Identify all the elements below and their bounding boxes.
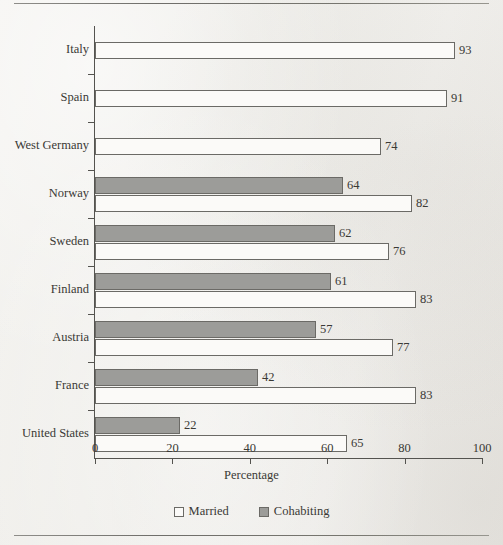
- bar-value-label: 91: [451, 91, 464, 106]
- x-axis-title: Percentage: [0, 468, 503, 483]
- bar-cohabiting: [95, 225, 335, 242]
- x-axis-tick: [405, 458, 406, 464]
- y-axis-category-label: Norway: [49, 186, 89, 201]
- y-axis-category-label: West Germany: [15, 138, 89, 153]
- y-axis-category-label: Finland: [51, 282, 89, 297]
- y-axis-tick: [88, 362, 94, 363]
- y-axis-tick: [88, 314, 94, 315]
- y-axis-category-label: Spain: [61, 90, 89, 105]
- x-axis-tick: [482, 458, 483, 464]
- bar-value-label: 74: [385, 139, 398, 154]
- y-axis-tick: [88, 122, 94, 123]
- x-axis-tick: [250, 458, 251, 464]
- legend-item-cohabiting[interactable]: Cohabiting: [259, 504, 330, 519]
- bar-cohabiting: [95, 321, 316, 338]
- grouped-bar-chart: 939174648262766183577742832265 ItalySpai…: [0, 0, 503, 545]
- x-axis-tick-label: 0: [92, 441, 98, 456]
- legend-swatch-married-icon: [174, 507, 184, 517]
- y-axis-category-label: Italy: [66, 42, 89, 57]
- x-axis-tick-label: 100: [473, 441, 492, 456]
- legend-item-married[interactable]: Married: [174, 504, 229, 519]
- x-axis-tick: [327, 458, 328, 464]
- bar-value-label: 62: [339, 226, 352, 241]
- y-axis-tick: [88, 266, 94, 267]
- bar-married: [95, 90, 447, 107]
- bar-married: [95, 138, 381, 155]
- legend-label-married: Married: [189, 504, 229, 519]
- bar-value-label: 65: [351, 436, 364, 451]
- bar-value-label: 83: [420, 388, 433, 403]
- x-axis-tick: [95, 458, 96, 464]
- y-axis-category-label: Sweden: [49, 234, 89, 249]
- legend-swatch-cohabiting-icon: [259, 507, 269, 517]
- bar-cohabiting: [95, 417, 180, 434]
- bar-married: [95, 387, 416, 404]
- y-axis-category-label: Austria: [52, 330, 89, 345]
- y-axis-category-label: France: [55, 378, 89, 393]
- plot-area: 939174648262766183577742832265: [95, 26, 482, 458]
- bar-cohabiting: [95, 369, 258, 386]
- bar-value-label: 61: [335, 274, 348, 289]
- chart-legend: Married Cohabiting: [0, 504, 503, 519]
- y-axis-tick: [88, 218, 94, 219]
- bar-married: [95, 435, 347, 452]
- bar-cohabiting: [95, 177, 343, 194]
- bar-married: [95, 243, 389, 260]
- bar-value-label: 77: [397, 340, 410, 355]
- y-axis-tick: [88, 74, 94, 75]
- x-axis-tick-label: 60: [321, 441, 334, 456]
- bar-value-label: 57: [320, 322, 333, 337]
- bar-value-label: 64: [347, 178, 360, 193]
- bar-value-label: 42: [262, 370, 275, 385]
- x-axis-tick-label: 20: [166, 441, 179, 456]
- bar-married: [95, 339, 393, 356]
- bar-value-label: 83: [420, 292, 433, 307]
- legend-label-cohabiting: Cohabiting: [274, 504, 330, 519]
- x-axis-tick-label: 40: [244, 441, 257, 456]
- y-axis-tick: [88, 170, 94, 171]
- x-axis-tick: [172, 458, 173, 464]
- bar-value-label: 82: [416, 196, 429, 211]
- y-axis-tick: [88, 410, 94, 411]
- y-axis-category-label: United States: [22, 426, 89, 441]
- bar-married: [95, 291, 416, 308]
- bar-cohabiting: [95, 273, 331, 290]
- x-axis-line: [94, 458, 482, 459]
- bar-value-label: 22: [184, 418, 197, 433]
- bar-value-label: 93: [459, 43, 472, 58]
- x-axis-tick-label: 80: [398, 441, 411, 456]
- bar-married: [95, 42, 455, 59]
- bar-married: [95, 195, 412, 212]
- bar-value-label: 76: [393, 244, 406, 259]
